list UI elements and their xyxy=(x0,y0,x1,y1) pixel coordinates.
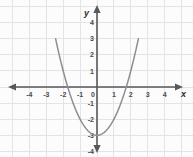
coordinate-plane: -4-3-2-101234 4321-1-2-3-4 x y xyxy=(0,0,193,157)
y-tick-label: 4 xyxy=(90,19,94,26)
y-axis-label: y xyxy=(83,8,90,18)
x-tick-label: 2 xyxy=(129,91,133,98)
y-tick-label: -2 xyxy=(88,116,94,123)
axes xyxy=(8,5,183,153)
x-tick-label: -1 xyxy=(77,91,83,98)
x-tick-label: -3 xyxy=(43,91,49,98)
x-tick-label: 1 xyxy=(112,91,116,98)
y-tick-label: 2 xyxy=(90,51,94,58)
x-axis-label: x xyxy=(180,89,187,99)
x-tick-label: -4 xyxy=(26,91,32,98)
x-tick-label: 3 xyxy=(146,91,150,98)
y-tick-label: 1 xyxy=(90,68,94,75)
y-tick-label: 3 xyxy=(90,35,94,42)
x-tick-label: 0 xyxy=(91,91,95,98)
x-tick-label: -2 xyxy=(60,91,66,98)
y-tick-label: -4 xyxy=(88,148,94,155)
y-tick-label: -1 xyxy=(88,100,94,107)
graph-figure: -4-3-2-101234 4321-1-2-3-4 x y xyxy=(0,0,193,157)
x-tick-label: 4 xyxy=(163,91,167,98)
